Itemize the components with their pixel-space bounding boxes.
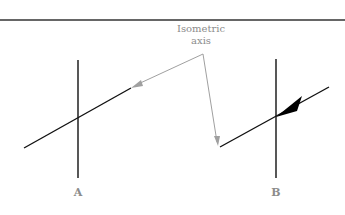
callout-leader-lines <box>131 54 220 146</box>
leader-line-to-a <box>136 54 203 85</box>
figure-a-label: A <box>68 186 88 199</box>
figure-a <box>24 60 131 178</box>
leader-arrow-a-icon <box>131 80 143 88</box>
figure-b-diagonal-line <box>220 87 329 147</box>
isometric-axis-callout: Isometric axis <box>165 23 237 47</box>
leader-line-to-b <box>203 54 217 142</box>
figure-b-label: B <box>266 186 286 199</box>
callout-line-2: axis <box>165 35 237 47</box>
callout-line-1: Isometric <box>165 23 237 35</box>
leader-arrow-b-icon <box>214 136 220 146</box>
isometric-axis-diagram: Isometric axis A B <box>0 0 345 215</box>
figure-b <box>220 59 329 178</box>
